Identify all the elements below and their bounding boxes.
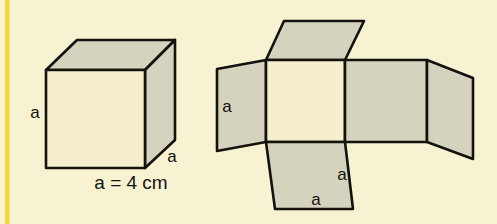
figure-canvas: a a a = 4 cm a a a [0, 0, 497, 224]
solid-cube [46, 40, 175, 168]
net-center-face [266, 60, 345, 142]
left-accent-rule [5, 0, 10, 224]
net-left-flap-label: a [222, 97, 232, 116]
cube-depth-label: a [167, 147, 177, 166]
net-far-right-flap [427, 60, 473, 159]
geometry-figure: a a a = 4 cm a a a [0, 0, 497, 224]
cube-edge-equation-label: a = 4 cm [94, 172, 167, 193]
net-right-face [345, 60, 427, 142]
cube-front-face [46, 70, 145, 168]
net-bottom-flap-base-label: a [311, 190, 321, 209]
net-bottom-flap-side-label: a [337, 165, 347, 184]
cube-height-label: a [30, 103, 40, 122]
